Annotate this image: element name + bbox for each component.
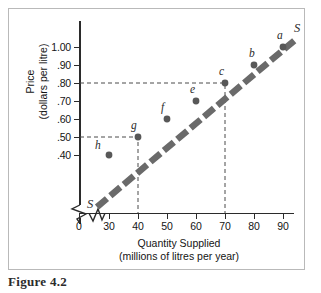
data-point-f xyxy=(164,116,171,123)
data-point-h xyxy=(106,152,113,159)
data-point-e xyxy=(193,98,200,105)
curve-label-s-top: S xyxy=(294,21,300,36)
curve-label-s-bottom: S xyxy=(87,197,93,212)
y-axis-title: Price (dollars per litre) xyxy=(24,17,49,147)
supply-curve xyxy=(97,40,295,207)
point-label-a: a xyxy=(277,29,283,41)
guide-line-c xyxy=(80,83,225,213)
data-point-a xyxy=(280,44,287,51)
x-axis-title-main: Quantity Supplied xyxy=(138,237,221,249)
point-label-c: c xyxy=(219,65,224,77)
y-axis-title-main: Price xyxy=(24,70,36,94)
x-axis-title-sub: (millions of litres per year) xyxy=(119,250,239,262)
point-label-f: f xyxy=(161,101,164,113)
point-label-e: e xyxy=(190,83,195,95)
chart-vector-layer xyxy=(9,9,306,271)
x-axis-title: Quantity Supplied (millions of litres pe… xyxy=(55,237,303,262)
chart-plot-area: 1.00 .90 .80 .70 .60 .50 .40 0 30 40 50 … xyxy=(9,9,306,271)
point-label-h: h xyxy=(95,139,101,151)
data-point-g xyxy=(135,134,142,141)
data-point-b xyxy=(251,62,258,69)
point-label-g: g xyxy=(131,119,137,131)
y-axis-title-sub: (dollars per litre) xyxy=(36,44,48,120)
figure-panel: 1.00 .90 .80 .70 .60 .50 .40 0 30 40 50 … xyxy=(8,8,305,270)
y-axis-break-icon xyxy=(72,205,86,223)
point-label-b: b xyxy=(249,47,255,59)
figure-caption: Figure 4.2 xyxy=(8,274,305,290)
data-point-c xyxy=(222,80,229,87)
